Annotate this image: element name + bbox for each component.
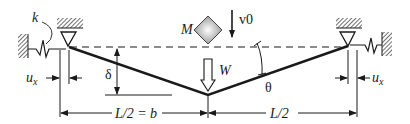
velocity-label: v0 <box>239 12 253 27</box>
left-support-hatch <box>57 18 83 28</box>
deflection-label: δ <box>105 67 112 82</box>
angle-arc <box>257 43 262 75</box>
left-pin-icon <box>61 32 76 46</box>
right-pin-icon <box>340 32 355 46</box>
mass-label: M <box>180 22 194 37</box>
mass-icon <box>194 16 222 44</box>
spring-right-icon <box>350 38 382 53</box>
right-ux-label: ux <box>372 70 384 87</box>
spring-label: k <box>32 10 39 25</box>
beam-impact-diagram: k M v0 W δ θ ux <box>0 0 410 124</box>
left-wall <box>18 34 28 58</box>
right-span-label: L/2 <box>269 106 289 121</box>
angle-label: θ <box>265 80 272 95</box>
load-label: W <box>219 63 232 78</box>
load-arrow-icon <box>201 59 215 91</box>
right-wall <box>382 32 392 56</box>
left-span-label: L/2 = b <box>114 106 157 121</box>
left-ux-label: ux <box>26 70 38 87</box>
right-support-hatch <box>336 18 362 28</box>
